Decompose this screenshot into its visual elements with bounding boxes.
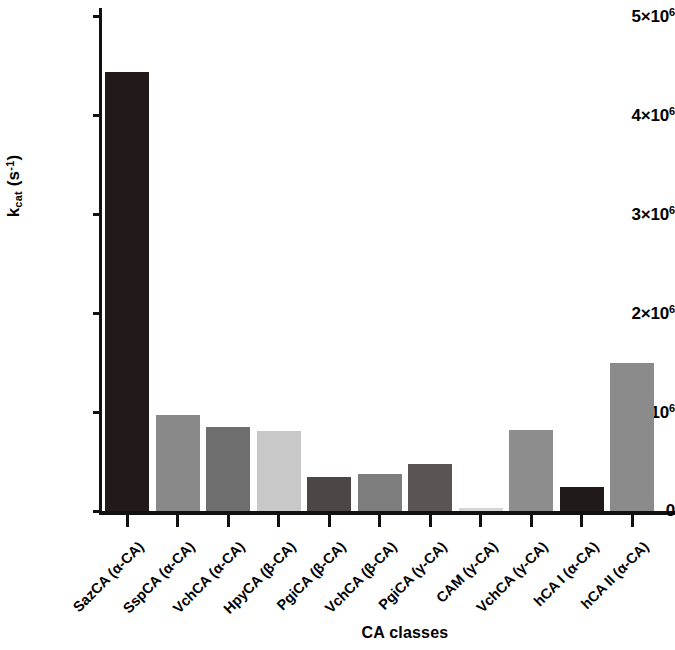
y-axis-title-unit-exponent: -1 <box>4 161 16 171</box>
y-tick-mark <box>93 114 102 117</box>
x-tick-mark <box>126 515 129 527</box>
bar <box>610 363 654 512</box>
bar <box>560 487 604 511</box>
bar <box>105 72 149 511</box>
x-tick-mark <box>631 515 634 527</box>
x-tick-mark <box>176 515 179 527</box>
x-tick-mark <box>530 515 533 527</box>
bar <box>408 464 452 511</box>
x-tick-mark <box>227 515 230 527</box>
x-tick-mark <box>277 515 280 527</box>
y-tick-mark <box>93 411 102 414</box>
bar <box>358 474 402 511</box>
bar <box>307 477 351 511</box>
x-axis-title: CA classes <box>305 624 505 642</box>
y-axis-title-unit-open: (s <box>4 171 23 187</box>
y-tick-mark <box>93 510 102 513</box>
bar <box>156 415 200 511</box>
x-axis-spine <box>99 511 675 515</box>
bar <box>459 508 503 511</box>
plot-area <box>102 8 675 511</box>
y-axis-title-unit-close: ) <box>4 155 23 161</box>
x-tick-mark <box>429 515 432 527</box>
bar-chart: kcat (s-1) 01×1062×1063×1064×1065×106 Sa… <box>0 0 675 650</box>
y-tick-mark <box>93 15 102 18</box>
y-tick-mark <box>93 213 102 216</box>
bar <box>206 427 250 511</box>
bar <box>257 431 301 511</box>
x-tick-mark <box>328 515 331 527</box>
x-tick-mark <box>378 515 381 527</box>
x-tick-label: SazCA (α-CA) <box>0 538 147 650</box>
x-tick-mark <box>479 515 482 527</box>
bar <box>509 430 553 511</box>
y-axis-title-base: k <box>4 208 23 218</box>
y-axis-title-subscript: cat <box>12 191 24 208</box>
y-tick-mark <box>93 312 102 315</box>
y-axis-title: kcat (s-1) <box>4 116 32 256</box>
x-tick-mark <box>580 515 583 527</box>
